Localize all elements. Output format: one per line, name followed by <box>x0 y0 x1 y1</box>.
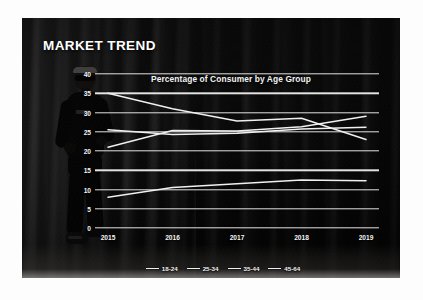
slide-background-photo: MARKET TREND Percentage of Consumer by A… <box>22 18 400 278</box>
legend-swatch-icon <box>187 268 200 270</box>
x-axis-tick-label: 2019 <box>359 234 374 241</box>
y-axis-tick-label: 40 <box>84 71 91 78</box>
legend-label: 18-24 <box>162 265 178 272</box>
y-axis-tick-label: 0 <box>87 225 91 232</box>
chart-plot-area: 0510152025303540 <box>95 74 379 228</box>
legend-item[interactable]: 25-34 <box>187 265 219 272</box>
legend-label: 25-34 <box>203 265 219 272</box>
x-axis-tick-label: 2018 <box>294 234 309 241</box>
series-line-18-24 <box>108 180 366 197</box>
chart-x-axis-labels: 20152016201720182019 <box>95 234 379 247</box>
legend-item[interactable]: 35-44 <box>228 265 260 272</box>
legend-label: 35-44 <box>244 265 260 272</box>
legend-swatch-icon <box>146 268 159 270</box>
y-axis-tick-label: 10 <box>84 186 91 193</box>
legend-swatch-icon <box>268 268 281 270</box>
slide-content: MARKET TREND Percentage of Consumer by A… <box>22 18 400 278</box>
x-axis-tick-label: 2016 <box>165 234 180 241</box>
chart-series-lines <box>95 74 379 228</box>
y-axis-tick-label: 20 <box>84 148 91 155</box>
x-axis-tick-label: 2015 <box>101 234 116 241</box>
page-title: MARKET TREND <box>43 38 156 53</box>
legend-item[interactable]: 45-64 <box>268 265 300 272</box>
legend-swatch-icon <box>228 268 241 270</box>
y-axis-tick-label: 30 <box>84 109 91 116</box>
legend-label: 45-64 <box>284 265 300 272</box>
chart-legend: 18-2425-3435-4445-64 <box>22 265 400 272</box>
legend-item[interactable]: 18-24 <box>146 265 178 272</box>
y-axis-tick-label: 5 <box>87 205 91 212</box>
x-axis-tick-label: 2017 <box>230 234 245 241</box>
y-axis-tick-label: 15 <box>84 167 91 174</box>
y-axis-tick-label: 35 <box>84 90 91 97</box>
slide-canvas: MARKET TREND Percentage of Consumer by A… <box>0 0 423 300</box>
y-axis-tick-label: 25 <box>84 128 91 135</box>
